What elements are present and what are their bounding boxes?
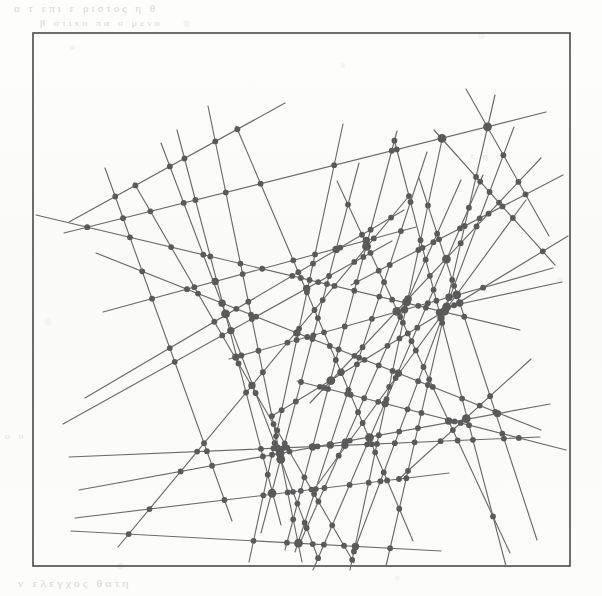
intersection-vertex [344,391,350,397]
intersection-vertex [540,248,546,254]
intersection-vertex [381,470,387,476]
intersection-vertex [167,345,173,351]
intersection-vertex [172,359,178,365]
intersection-vertex [268,489,277,498]
intersection-vertex [431,287,437,293]
intersection-vertex [393,375,399,381]
intersection-vertex [302,474,308,480]
intersection-vertex [487,189,493,195]
intersection-vertex [204,448,210,454]
intersection-vertex [276,455,285,464]
intersection-vertex [405,468,411,474]
intersection-vertex [294,337,300,343]
intersection-vertex [466,205,472,211]
intersection-vertex [289,273,295,279]
intersection-vertex [403,475,409,481]
intersection-vertex [409,338,415,344]
intersection-vertex [285,490,291,496]
intersection-vertex [212,139,218,145]
intersection-vertex [193,197,199,203]
intersection-vertex [332,246,339,253]
scanned-page: α τ επι ε ριστος η θ β στικο πα σ μενο τ… [0,0,602,596]
intersection-vertex [182,155,188,161]
intersection-vertex [355,409,361,415]
intersection-vertex [442,302,451,311]
intersection-vertex [365,433,374,442]
intersection-vertex [351,288,357,294]
intersection-vertex [240,271,246,277]
intersection-vertex [384,478,390,484]
intersection-vertex [269,452,275,458]
intersection-vertex [232,353,239,360]
intersection-vertex [127,234,133,240]
intersection-vertex [394,147,400,153]
intersection-vertex [500,152,506,158]
intersection-vertex [445,294,452,301]
intersection-vertex [486,211,492,217]
intersection-vertex [310,261,316,267]
intersection-vertex [490,514,496,520]
intersection-vertex [492,409,498,415]
intersection-vertex [392,440,398,446]
intersection-vertex [452,419,458,425]
intersection-vertex [434,231,440,237]
intersection-vertex [390,368,396,374]
intersection-vertex [459,396,465,402]
intersection-vertex [84,224,90,230]
intersection-vertex [439,320,445,326]
intersection-vertex [376,294,382,300]
intersection-vertex [269,413,275,419]
intersection-vertex [321,385,327,391]
intersection-vertex [384,396,390,402]
arrangement-line [386,95,495,566]
intersection-vertex [290,516,296,522]
intersection-vertex [233,306,239,312]
intersection-vertex [452,290,461,299]
intersection-vertex [327,343,333,349]
intersection-vertex [474,223,480,229]
intersection-vertex [307,277,313,283]
intersection-vertex [458,420,464,426]
intersection-vertex [239,353,245,359]
intersection-vertex [364,441,370,447]
intersection-vertex [477,179,483,185]
intersection-vertex [354,279,360,285]
intersection-vertex [298,379,304,385]
intersection-vertex [227,327,234,334]
intersection-vertex [451,283,457,289]
intersection-vertex [351,259,357,265]
intersection-vertex [362,357,368,363]
intersection-vertex [442,255,451,264]
intersection-vertex [414,325,420,331]
intersection-vertex [298,275,304,281]
intersection-vertex [279,407,285,413]
arrangement-line [351,175,563,285]
intersection-vertex [387,262,393,268]
intersection-vertex [396,506,402,512]
intersection-vertex [191,284,197,290]
intersection-vertex [200,252,206,258]
arrangement-line [434,130,555,265]
intersection-vertex [456,299,463,306]
intersection-vertex [236,361,242,367]
intersection-vertex [360,254,366,260]
intersection-vertex [333,357,339,363]
intersection-vertex [449,277,455,283]
intersection-vertex [354,361,360,367]
intersection-vertex [327,441,334,448]
intersection-vertex [167,164,173,170]
intersection-vertex [396,476,402,482]
intersection-vertex [426,376,432,382]
intersection-vertex [345,202,351,208]
intersection-vertex [326,273,332,279]
intersection-vertex [401,306,408,313]
intersection-vertex [500,204,506,210]
intersection-vertex [516,435,522,441]
intersection-vertex [181,200,187,206]
intersection-vertex [397,314,403,320]
intersection-vertex [273,433,279,439]
intersection-vertex [238,261,244,267]
intersection-vertex [419,410,425,416]
intersection-vertex [149,296,155,302]
intersection-vertex [322,485,328,491]
